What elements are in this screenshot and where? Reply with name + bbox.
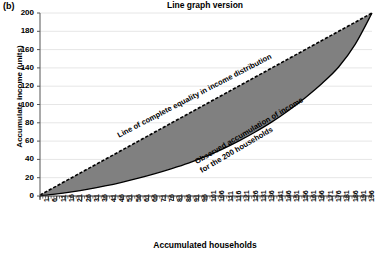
lorenz-curve-figure: (b) Line graph version Accumulate income… [0, 0, 378, 253]
plot-area [0, 0, 378, 253]
